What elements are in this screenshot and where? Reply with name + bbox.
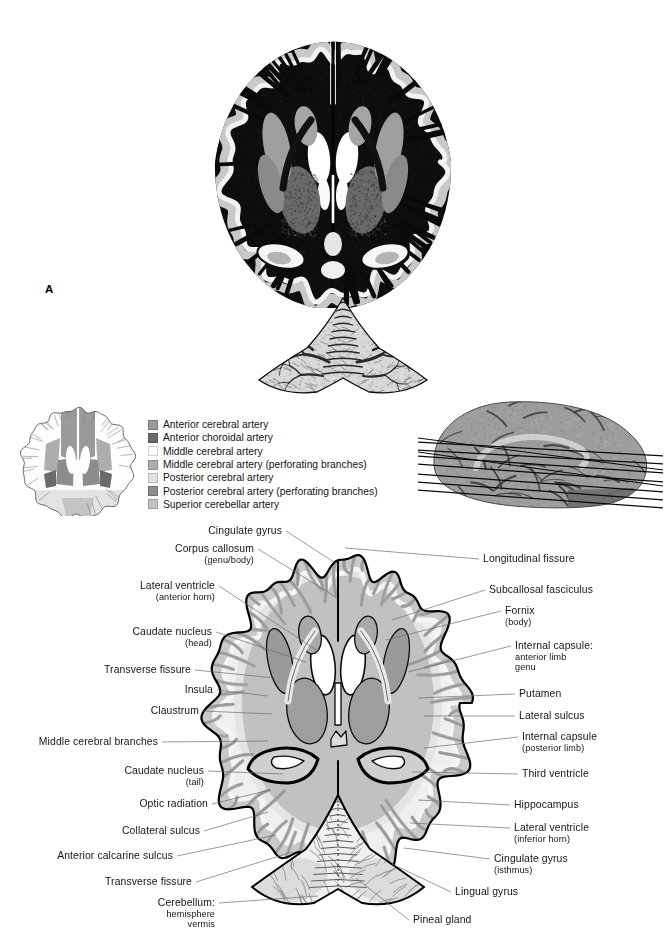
label-transverse-fissure-2: Transverse fissure [0, 876, 192, 888]
label-middle-cerebral-branch: Middle cerebral branches [0, 736, 158, 748]
label-subtext: (body) [505, 617, 535, 627]
label-text: Longitudinal fissure [483, 553, 575, 564]
label-text: Lateral sulcus [519, 710, 585, 721]
legend-row: Middle cerebral artery [148, 445, 378, 458]
label-text: Third ventricle [522, 768, 589, 779]
label-lateral-ventricle-ah: Lateral ventricle(anterior horn) [0, 580, 215, 602]
label-subtext: vermis [0, 919, 215, 929]
stained-section-photograph [158, 8, 508, 308]
legend-label: Superior cerebellar artery [163, 499, 279, 510]
label-subtext: (posterior limb) [522, 743, 597, 753]
label-caudate-nucleus-head: Caudate nucleus(head) [0, 626, 212, 648]
label-text: Cingulate gyrus [494, 853, 568, 864]
label-text: Internal capsule: [515, 640, 593, 651]
label-cingulate-gyrus: Cingulate gyrus [0, 525, 282, 537]
legend-swatch-2 [148, 446, 158, 456]
labeled-line-drawing [178, 525, 498, 925]
label-subtext: anterior limb [515, 652, 593, 662]
label-subtext: hemisphere [0, 909, 215, 919]
label-text: Pineal gland [413, 914, 471, 925]
legend-row: Anterior choroidal artery [148, 431, 378, 444]
label-hippocampus: Hippocampus [514, 799, 579, 811]
label-text: Lateral ventricle [140, 580, 215, 591]
vascular-territory-diagram [8, 398, 148, 516]
label-text: Corpus callosum [175, 543, 254, 554]
label-internal-capsule-post: Internal capsule(posterior limb) [522, 731, 597, 753]
label-cerebellum: Cerebellum:hemispherevermis [0, 897, 215, 929]
legend-label: Anterior cerebral artery [163, 419, 268, 430]
legend-row: Posterior cerebral artery [148, 471, 378, 484]
label-putamen: Putamen [519, 688, 561, 700]
label-text: Lateral ventricle [514, 822, 589, 833]
panel-letter-a: A [45, 283, 53, 295]
label-text: Transverse fissure [104, 664, 191, 675]
label-text: Anterior calcarine sulcus [57, 850, 173, 861]
legend-label: Middle cerebral artery [163, 446, 263, 457]
cerebellum-photograph [253, 292, 433, 402]
label-longitudinal-fissure: Longitudinal fissure [483, 553, 575, 565]
legend-row: Superior cerebellar artery [148, 498, 378, 511]
label-text: Putamen [519, 688, 561, 699]
label-lateral-sulcus: Lateral sulcus [519, 710, 585, 722]
legend-label: Posterior cerebral artery [163, 472, 273, 483]
sagittal-orientation-diagram [418, 394, 663, 522]
legend-row: Anterior cerebral artery [148, 418, 378, 431]
label-subtext: (anterior horn) [0, 592, 215, 602]
label-subtext: genu [515, 662, 593, 672]
legend-swatch-4 [148, 473, 158, 483]
label-claustrum: Claustrum [0, 705, 199, 717]
label-lingual-gyrus: Lingual gyrus [455, 886, 518, 898]
label-text: Optic radiation [139, 798, 208, 809]
label-pineal-gland: Pineal gland [413, 914, 471, 926]
label-collateral-sulcus: Collateral sulcus [0, 825, 200, 837]
label-insula: Insula [0, 684, 213, 696]
label-text: Cerebellum: [158, 897, 215, 908]
label-subtext: (genu/body) [0, 555, 254, 565]
legend-label: Anterior choroidal artery [163, 432, 273, 443]
label-text: Fornix [505, 605, 535, 616]
label-subtext: (head) [0, 638, 212, 648]
label-text: Caudate nucleus [124, 765, 204, 776]
label-text: Hippocampus [514, 799, 579, 810]
label-cingulate-gyrus-isth: Cingulate gyrus(isthmus) [494, 853, 568, 875]
label-caudate-nucleus-tail: Caudate nucleus(tail) [0, 765, 204, 787]
label-text: Caudate nucleus [132, 626, 212, 637]
label-text: Claustrum [151, 705, 199, 716]
label-text: Transverse fissure [105, 876, 192, 887]
label-text: Subcallosal fasciculus [489, 584, 593, 595]
legend-swatch-0 [148, 420, 158, 430]
label-text: Collateral sulcus [122, 825, 200, 836]
legend-swatch-6 [148, 499, 158, 509]
legend-label: Middle cerebral artery (perforating bran… [163, 459, 367, 470]
label-subtext: (inferior horn) [514, 834, 589, 844]
label-third-ventricle: Third ventricle [522, 768, 589, 780]
label-text: Lingual gyrus [455, 886, 518, 897]
label-transverse-fissure-1: Transverse fissure [0, 664, 191, 676]
label-corpus-callosum: Corpus callosum(genu/body) [0, 543, 254, 565]
legend-swatch-5 [148, 486, 158, 496]
legend-row: Posterior cerebral artery (perforating b… [148, 484, 378, 497]
label-text: Cingulate gyrus [208, 525, 282, 536]
legend-row: Middle cerebral artery (perforating bran… [148, 458, 378, 471]
label-subtext: (isthmus) [494, 865, 568, 875]
legend-swatch-3 [148, 460, 158, 470]
label-text: Insula [185, 684, 213, 695]
label-subtext: (tail) [0, 777, 204, 787]
legend-swatch-1 [148, 433, 158, 443]
label-anterior-calcarine: Anterior calcarine sulcus [0, 850, 173, 862]
label-fornix: Fornix(body) [505, 605, 535, 627]
artery-legend: Anterior cerebral arteryAnterior choroid… [148, 418, 378, 511]
legend-label: Posterior cerebral artery (perforating b… [163, 486, 378, 497]
label-text: Middle cerebral branches [39, 736, 158, 747]
label-lateral-ventricle-ih: Lateral ventricle(inferior horn) [514, 822, 589, 844]
label-subcallosal-fasciculus: Subcallosal fasciculus [489, 584, 593, 596]
figure-page: A Anterior cerebral arteryAnterior choro… [0, 0, 665, 943]
label-internal-capsule: Internal capsule:anterior limbgenu [515, 640, 593, 672]
label-optic-radiation: Optic radiation [0, 798, 208, 810]
label-text: Internal capsule [522, 731, 597, 742]
